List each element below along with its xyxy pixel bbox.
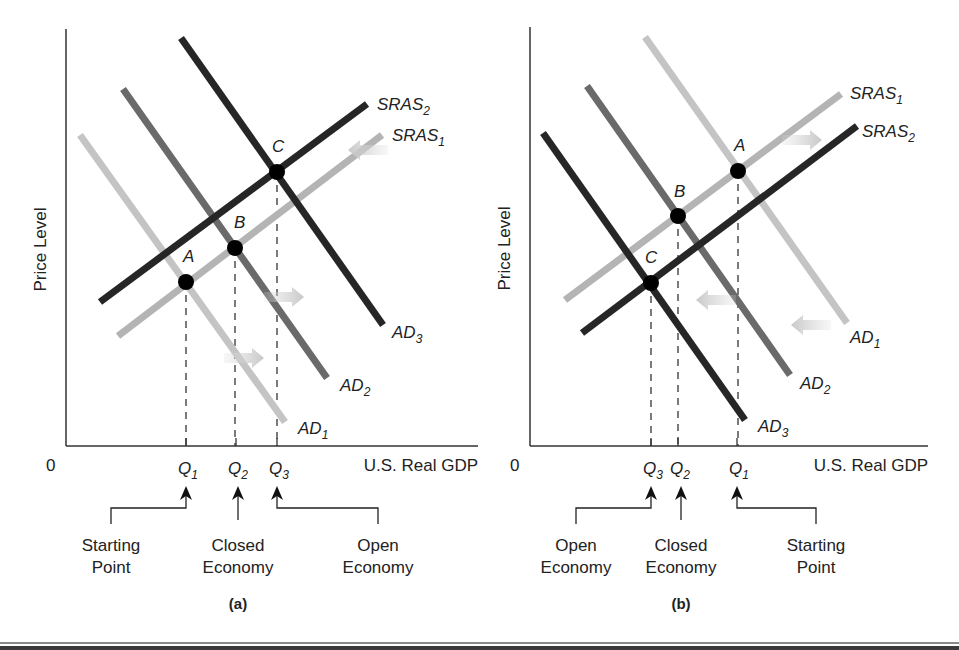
label-sras-1: SRAS1 bbox=[392, 126, 445, 149]
equilibrium-point-c bbox=[643, 275, 659, 291]
shift-arrow-left-icon bbox=[791, 315, 831, 335]
panel-b-closed-vs-open-economy-contraction: Price Level0U.S. Real GDPAD1SRAS1AD2AD3S… bbox=[495, 27, 928, 612]
label-ad-1: AD1 bbox=[849, 328, 880, 351]
figure-stage: Price Level0U.S. Real GDPAD1SRAS1AD2AD3S… bbox=[0, 0, 959, 650]
quantity-label-q2: Q2 bbox=[670, 459, 690, 482]
point-label-a: A bbox=[182, 247, 194, 266]
equilibrium-point-b bbox=[670, 208, 686, 224]
label-ad-1: AD1 bbox=[297, 419, 328, 442]
annotation-starting-point: StartingPoint bbox=[731, 486, 845, 577]
annotation-text: Economy bbox=[646, 558, 717, 577]
x-axis-label: U.S. Real GDP bbox=[364, 456, 478, 475]
annotation-open-economy: OpenEconomy bbox=[541, 486, 657, 577]
equilibrium-point-c bbox=[269, 164, 285, 180]
annotation-open-economy: OpenEconomy bbox=[271, 486, 414, 577]
y-axis-label: Price Level bbox=[495, 206, 514, 290]
point-label-c: C bbox=[272, 137, 285, 156]
quantity-label-q1: Q1 bbox=[729, 459, 749, 482]
curve-ad-3 bbox=[181, 38, 383, 325]
annotation-text: Economy bbox=[203, 558, 274, 577]
label-sras-1: SRAS1 bbox=[850, 84, 903, 107]
quantity-label-q3: Q3 bbox=[643, 459, 663, 482]
label-sras-2: SRAS2 bbox=[377, 95, 430, 118]
annotation-text: Starting bbox=[82, 536, 141, 555]
curve-sras-1 bbox=[118, 135, 382, 336]
annotation-closed-economy: ClosedEconomy bbox=[203, 486, 274, 577]
annotation-text: Open bbox=[555, 536, 597, 555]
point-label-a: A bbox=[733, 136, 745, 155]
equilibrium-point-a bbox=[178, 274, 194, 290]
quantity-label-q3: Q3 bbox=[269, 459, 289, 482]
quantity-label-q1: Q1 bbox=[178, 459, 198, 482]
label-ad-2: AD2 bbox=[799, 374, 831, 397]
equilibrium-point-b bbox=[227, 240, 243, 256]
panel-caption: (b) bbox=[671, 595, 690, 612]
page-rule-thick bbox=[0, 646, 959, 650]
curve-ad-3 bbox=[543, 133, 745, 420]
annotation-text: Point bbox=[92, 558, 131, 577]
annotation-text: Closed bbox=[655, 536, 708, 555]
curve-ad-2 bbox=[587, 86, 790, 375]
quantity-label-q2: Q2 bbox=[228, 459, 248, 482]
y-axis-label: Price Level bbox=[31, 207, 50, 291]
label-ad-3: AD3 bbox=[757, 417, 789, 440]
annotation-text: Starting bbox=[787, 536, 846, 555]
point-label-b: B bbox=[674, 182, 685, 201]
origin-label: 0 bbox=[46, 456, 55, 475]
point-label-c: C bbox=[645, 248, 658, 267]
annotation-text: Point bbox=[797, 558, 836, 577]
panel-caption: (a) bbox=[229, 595, 247, 612]
curve-ad-1 bbox=[645, 37, 847, 323]
ad-sras-figure: Price Level0U.S. Real GDPAD1SRAS1AD2AD3S… bbox=[0, 0, 959, 650]
label-ad-2: AD2 bbox=[339, 376, 371, 399]
panel-a-closed-vs-open-economy-expansion: Price Level0U.S. Real GDPAD1SRAS1AD2AD3S… bbox=[31, 29, 478, 612]
x-axis-label: U.S. Real GDP bbox=[814, 456, 928, 475]
annotation-starting-point: StartingPoint bbox=[82, 486, 192, 577]
page-rule-thin bbox=[0, 642, 959, 644]
equilibrium-point-a bbox=[730, 163, 746, 179]
shift-arrow-right-icon bbox=[264, 287, 304, 307]
label-sras-2: SRAS2 bbox=[862, 122, 915, 145]
label-ad-3: AD3 bbox=[391, 323, 423, 346]
annotation-closed-economy: ClosedEconomy bbox=[646, 486, 717, 577]
point-label-b: B bbox=[234, 213, 245, 232]
origin-label: 0 bbox=[510, 456, 519, 475]
annotation-text: Economy bbox=[343, 558, 414, 577]
curve-sras-2 bbox=[100, 104, 367, 302]
annotation-text: Economy bbox=[541, 558, 612, 577]
annotation-text: Closed bbox=[212, 536, 265, 555]
annotation-text: Open bbox=[357, 536, 399, 555]
